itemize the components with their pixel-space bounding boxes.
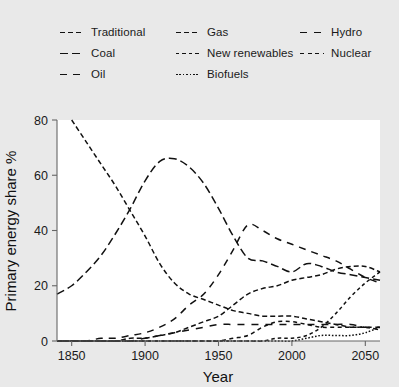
- legend-column-3: HydroNuclear: [300, 22, 371, 64]
- legend-item-biofuels[interactable]: Biofuels: [176, 64, 293, 85]
- legend-label: Oil: [91, 69, 105, 81]
- y-tick-label: 0: [41, 335, 48, 349]
- x-tick-label: 2050: [351, 349, 379, 363]
- legend-item-oil[interactable]: Oil: [60, 64, 145, 85]
- legend-swatch-new-renewables-icon: [176, 53, 200, 55]
- chart-legend: TraditionalCoalOil GasNew renewablesBiof…: [0, 22, 399, 92]
- legend-label: Coal: [91, 48, 115, 60]
- legend-swatch-gas-icon: [176, 32, 200, 34]
- energy-share-figure: TraditionalCoalOil GasNew renewablesBiof…: [0, 0, 399, 387]
- legend-label: Nuclear: [331, 48, 371, 60]
- legend-label: New renewables: [207, 48, 293, 60]
- legend-column-1: TraditionalCoalOil: [60, 22, 145, 85]
- y-tick-label: 60: [34, 169, 48, 183]
- legend-swatch-oil-icon: [60, 74, 84, 76]
- legend-swatch-hydro-icon: [300, 32, 324, 34]
- legend-column-2: GasNew renewablesBiofuels: [176, 22, 293, 85]
- legend-item-new-renewables[interactable]: New renewables: [176, 43, 293, 64]
- y-axis-ticks: 020406080: [34, 114, 57, 349]
- legend-swatch-coal-icon: [60, 53, 84, 55]
- x-tick-label: 2000: [278, 349, 306, 363]
- x-tick-label: 1950: [205, 349, 233, 363]
- legend-item-traditional[interactable]: Traditional: [60, 22, 145, 43]
- x-tick-label: 1850: [58, 349, 86, 363]
- legend-item-hydro[interactable]: Hydro: [300, 22, 371, 43]
- legend-item-nuclear[interactable]: Nuclear: [300, 43, 371, 64]
- x-axis-title: Year: [203, 368, 233, 385]
- plot-background: [57, 120, 380, 341]
- y-axis-title: Primary energy share %: [2, 151, 19, 312]
- legend-label: Biofuels: [207, 69, 249, 81]
- legend-label: Traditional: [91, 27, 145, 39]
- legend-label: Gas: [207, 27, 228, 39]
- x-tick-label: 1900: [131, 349, 159, 363]
- legend-swatch-traditional-icon: [60, 32, 84, 34]
- line-chart-svg: 020406080 18501900195020002050 Year Prim…: [0, 92, 399, 387]
- legend-item-coal[interactable]: Coal: [60, 43, 145, 64]
- legend-item-gas[interactable]: Gas: [176, 22, 293, 43]
- legend-swatch-nuclear-icon: [300, 53, 324, 55]
- plot-area: 020406080 18501900195020002050 Year Prim…: [0, 92, 399, 387]
- y-tick-label: 20: [34, 279, 48, 293]
- legend-swatch-biofuels-icon: [176, 74, 200, 76]
- y-tick-label: 80: [34, 114, 48, 128]
- x-axis-ticks: 18501900195020002050: [58, 341, 379, 363]
- legend-label: Hydro: [331, 27, 362, 39]
- y-tick-label: 40: [34, 224, 48, 238]
